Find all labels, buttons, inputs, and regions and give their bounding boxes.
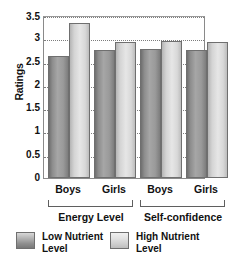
bar-energy-boys-low[interactable] xyxy=(48,56,69,178)
bar-energy-girls-low[interactable] xyxy=(94,50,115,178)
legend-label-high-line2: Level xyxy=(136,243,162,254)
bracket-self-confidence xyxy=(140,200,225,207)
group-brackets xyxy=(43,200,205,210)
x-label-confidence-boys: Boys xyxy=(147,183,173,195)
group-title-energy-level: Energy Level xyxy=(58,211,123,223)
bar-group-energy-boys xyxy=(48,17,90,178)
y-tick-1: 1 xyxy=(34,125,40,136)
y-tick-3-5: 3.5 xyxy=(26,11,40,22)
y-tick-0: 0 xyxy=(34,172,40,183)
plot-area xyxy=(43,16,205,179)
bar-group-confidence-boys xyxy=(140,17,182,178)
legend-label-low-line1: Low Nutrient xyxy=(42,231,103,242)
group-titles: Energy Level Self-confidence xyxy=(28,211,223,227)
bar-group-confidence-girls xyxy=(186,17,228,178)
bar-confidence-boys-high[interactable] xyxy=(161,41,182,178)
y-tick-0-5: 0.5 xyxy=(26,148,40,159)
bracket-energy-level xyxy=(48,200,133,207)
legend-label-low-nutrient: Low Nutrient Level xyxy=(42,231,103,254)
group-title-self-confidence: Self-confidence xyxy=(144,211,222,223)
x-label-confidence-girls: Girls xyxy=(194,183,218,195)
bars-container xyxy=(44,17,204,178)
bar-confidence-girls-high[interactable] xyxy=(207,42,228,178)
bar-group-energy-girls xyxy=(94,17,136,178)
y-tick-2-5: 2.5 xyxy=(26,55,40,66)
legend-item-high-nutrient[interactable]: High Nutrient Level xyxy=(110,231,199,254)
bar-chart-figure: Ratings 0 0.5 1 1.5 2 2.5 3 3.5 xyxy=(0,0,229,265)
bar-confidence-boys-low[interactable] xyxy=(140,49,161,178)
bar-energy-boys-high[interactable] xyxy=(69,23,90,178)
chart-legend: Low Nutrient Level High Nutrient Level xyxy=(0,231,229,263)
y-tick-1-5: 1.5 xyxy=(26,102,40,113)
legend-label-high-nutrient: High Nutrient Level xyxy=(136,231,199,254)
y-tick-3: 3 xyxy=(34,32,40,43)
y-tick-2: 2 xyxy=(34,78,40,89)
y-axis-tick-labels: 0 0.5 1 1.5 2 2.5 3 3.5 xyxy=(14,14,40,179)
legend-swatch-high-nutrient-icon xyxy=(110,232,129,249)
legend-swatch-low-nutrient-icon xyxy=(16,232,35,249)
legend-label-high-line1: High Nutrient xyxy=(136,231,199,242)
legend-item-low-nutrient[interactable]: Low Nutrient Level xyxy=(16,231,103,254)
x-label-energy-girls: Girls xyxy=(102,183,126,195)
x-axis-category-labels: Boys Girls Boys Girls xyxy=(43,183,205,199)
legend-label-low-line2: Level xyxy=(42,243,68,254)
bar-confidence-girls-low[interactable] xyxy=(186,50,207,178)
x-label-energy-boys: Boys xyxy=(55,183,81,195)
bar-energy-girls-high[interactable] xyxy=(115,42,136,178)
